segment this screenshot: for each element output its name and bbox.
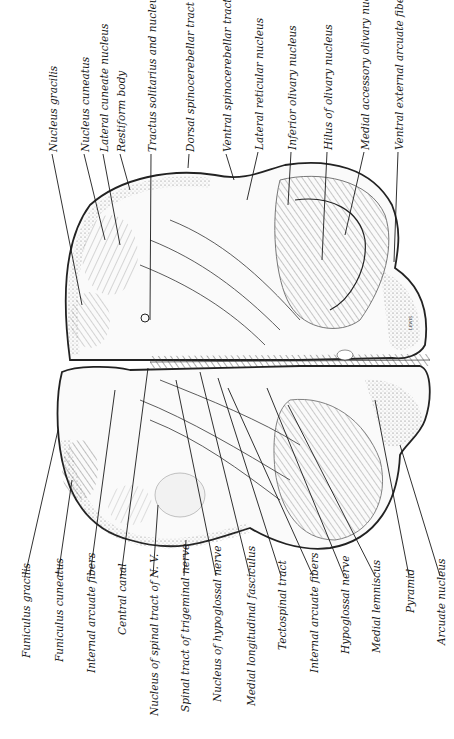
label-nucleus-spinal-tract-nv: Nucleus of spinal tract of N. V. bbox=[148, 554, 160, 716]
label-inferior-olivary-nucleus: Inferior olivary nucleus bbox=[286, 25, 298, 150]
label-arcuate-nucleus: Arcuate nucleus bbox=[435, 559, 447, 645]
label-tractus-solitarius: Tractus solitarius and nucleus bbox=[146, 0, 158, 152]
label-ventral-external-arcuate-fibers: Ventral external arcuate fibers bbox=[393, 0, 405, 150]
label-medial-longitudinal-fasciculus: Medial longitudinal fasciculus bbox=[245, 546, 257, 706]
label-nucleus-gracilis: Nucleus gracilis bbox=[47, 66, 59, 152]
label-lateral-reticular-nucleus: Lateral reticular nucleus bbox=[253, 18, 265, 150]
label-dorsal-spinocerebellar-tract: Dorsal spinocerebellar tract bbox=[184, 2, 196, 152]
medulla-cross-section-figure: LEWIS bbox=[0, 0, 454, 739]
label-hilus-of-olivary-nucleus: Hilus of olivary nucleus bbox=[322, 24, 334, 150]
label-funiculus-gracilis: Funiculus gracilis bbox=[20, 563, 32, 658]
label-nucleus-hypoglossal-nerve: Nucleus of hypoglossal nerve bbox=[211, 546, 223, 702]
label-medial-lemniscus: Medial lemniscus bbox=[370, 560, 382, 653]
label-nucleus-cuneatus: Nucleus cuneatus bbox=[79, 57, 91, 152]
label-medial-accessory-olivary-nucleus: Medial accessory olivary nucleus bbox=[359, 0, 371, 150]
label-internal-arcuate-fibers-2: Internal arcuate fibers bbox=[308, 553, 320, 673]
label-tectospinal-tract: Tectospinal tract bbox=[276, 560, 288, 650]
label-ventral-spinocerebellar-tract: Ventral spinocerebellar tract bbox=[221, 0, 233, 152]
upper-half: LEWIS bbox=[66, 163, 426, 360]
label-spinal-tract-trigeminal-nerve: Spinal tract of trigeminal nerve bbox=[179, 544, 191, 712]
label-restiform-body: Restiform body bbox=[115, 71, 127, 152]
artist-signature: LEWIS bbox=[408, 316, 413, 330]
label-pyramid: Pyramid bbox=[404, 569, 416, 613]
label-funiculus-cuneatus: Funiculus cuneatus bbox=[53, 558, 65, 662]
label-internal-arcuate-fibers-1: Internal arcuate fibers bbox=[85, 553, 97, 673]
label-lateral-cuneate-nucleus: Lateral cuneate nucleus bbox=[98, 24, 110, 152]
label-central-canal: Central canal bbox=[116, 563, 128, 635]
label-hypoglossal-nerve: Hypoglossal nerve bbox=[339, 556, 351, 654]
